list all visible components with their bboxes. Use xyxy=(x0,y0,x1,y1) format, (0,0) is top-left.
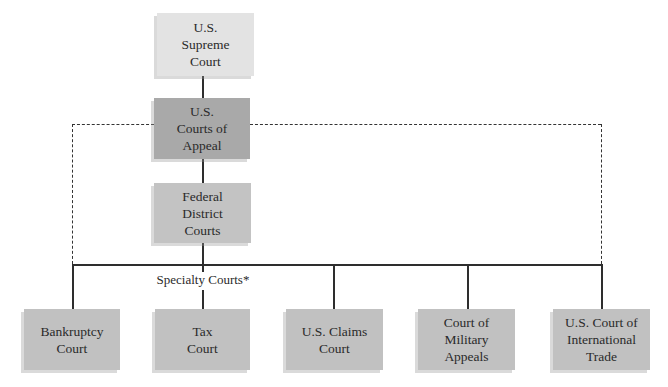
connector-trade xyxy=(601,264,603,309)
connector-bankruptcy xyxy=(72,264,74,309)
district-courts-box: Federal District Courts xyxy=(154,183,251,243)
courts-of-appeal-line-2: Courts of xyxy=(177,120,228,137)
connector-military xyxy=(467,264,469,309)
tax-court-box: Tax Court xyxy=(155,309,250,370)
connector-district-to-bus xyxy=(202,243,204,265)
connector-claims xyxy=(333,264,335,309)
dashed-appeal-line-left xyxy=(72,124,154,125)
connector-tax-lower xyxy=(202,290,204,309)
courts-of-appeal-box: U.S. Courts of Appeal xyxy=(154,98,250,159)
military-line-1: Court of xyxy=(444,314,489,331)
international-trade-box: U.S. Court of International Trade xyxy=(553,309,650,370)
supreme-court-line-1: U.S. xyxy=(182,19,230,36)
claims-court-box: U.S. Claims Court xyxy=(286,309,383,370)
bankruptcy-court-box: Bankruptcy Court xyxy=(24,309,120,370)
trade-line-3: Trade xyxy=(565,348,638,365)
connector-tax-upper xyxy=(202,264,204,272)
specialty-bus-line xyxy=(72,264,602,266)
courts-of-appeal-line-1: U.S. xyxy=(177,103,228,120)
claims-line-2: Court xyxy=(302,340,368,357)
courts-of-appeal-line-3: Appeal xyxy=(177,137,228,154)
trade-line-1: U.S. Court of xyxy=(565,314,638,331)
connector-appeal-to-district xyxy=(202,159,204,183)
dashed-appeal-line-right xyxy=(250,124,601,125)
dashed-appeal-drop-left xyxy=(72,124,73,264)
military-line-2: Military xyxy=(444,331,489,348)
district-courts-line-1: Federal xyxy=(182,188,223,205)
dashed-appeal-drop-right xyxy=(601,124,602,264)
tax-line-1: Tax xyxy=(187,323,218,340)
bankruptcy-line-1: Bankruptcy xyxy=(41,323,104,340)
claims-line-1: U.S. Claims xyxy=(302,323,368,340)
supreme-court-line-3: Court xyxy=(182,53,230,70)
military-appeals-box: Court of Military Appeals xyxy=(418,309,515,370)
trade-line-2: International xyxy=(565,331,638,348)
supreme-court-box: U.S. Supreme Court xyxy=(157,13,254,76)
district-courts-line-3: Courts xyxy=(182,222,223,239)
bankruptcy-line-2: Court xyxy=(41,340,104,357)
military-line-3: Appeals xyxy=(444,348,489,365)
district-courts-line-2: District xyxy=(182,205,223,222)
tax-line-2: Court xyxy=(187,340,218,357)
specialty-courts-label: Specialty Courts* xyxy=(155,272,251,288)
connector-supreme-to-appeal xyxy=(202,76,204,98)
supreme-court-line-2: Supreme xyxy=(182,36,230,53)
